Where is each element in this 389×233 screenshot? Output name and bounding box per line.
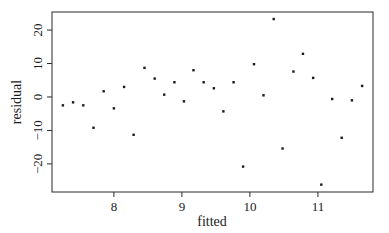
- data-point: [253, 63, 255, 65]
- data-point: [113, 107, 115, 109]
- y-axis-title: residual: [9, 80, 24, 124]
- data-point: [341, 137, 343, 139]
- data-point: [153, 77, 155, 79]
- data-point: [192, 69, 194, 71]
- x-tick-label: 8: [111, 199, 118, 214]
- data-point: [143, 67, 145, 69]
- data-point: [202, 81, 204, 83]
- data-point: [292, 70, 294, 72]
- data-point: [102, 90, 104, 92]
- x-tick-label: 9: [179, 199, 186, 214]
- y-tick-label: −20: [30, 154, 45, 174]
- data-point: [242, 165, 244, 167]
- y-tick-label: 10: [30, 57, 45, 70]
- data-point: [302, 53, 304, 55]
- x-tick-label: 10: [243, 199, 256, 214]
- data-point: [213, 87, 215, 89]
- x-axis-title: fitted: [197, 214, 227, 229]
- data-point: [262, 94, 264, 96]
- data-points: [62, 18, 364, 186]
- x-axis: 891011: [111, 192, 325, 214]
- data-point: [183, 100, 185, 102]
- plot-frame: [52, 12, 373, 192]
- x-tick-label: 11: [312, 199, 325, 214]
- data-point: [123, 86, 125, 88]
- data-point: [331, 98, 333, 100]
- data-point: [72, 101, 74, 103]
- data-point: [173, 81, 175, 83]
- y-tick-label: 0: [30, 94, 45, 101]
- data-point: [62, 104, 64, 106]
- data-point: [132, 134, 134, 136]
- data-point: [312, 77, 314, 79]
- y-tick-label: −10: [30, 120, 45, 140]
- data-point: [351, 99, 353, 101]
- y-axis: −20−1001020: [30, 24, 52, 175]
- residual-scatter-plot: 891011 −20−1001020 fitted residual: [0, 0, 389, 233]
- data-point: [232, 81, 234, 83]
- data-point: [222, 110, 224, 112]
- data-point: [281, 147, 283, 149]
- data-point: [163, 93, 165, 95]
- data-point: [320, 183, 322, 185]
- y-tick-label: 20: [30, 24, 45, 37]
- data-point: [361, 85, 363, 87]
- data-point: [92, 127, 94, 129]
- data-point: [273, 18, 275, 20]
- data-point: [82, 104, 84, 106]
